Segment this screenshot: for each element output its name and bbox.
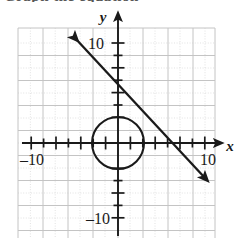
x-tick-label-positive-ten: 10 bbox=[200, 151, 216, 168]
coordinate-graph: y x –10 10 10 –10 bbox=[0, 0, 241, 246]
x-axis-label: x bbox=[225, 138, 234, 154]
y-tick-label-positive-ten: 10 bbox=[88, 35, 104, 52]
grid-background bbox=[18, 28, 215, 238]
figure-screenshot: Graph the equation bbox=[0, 0, 241, 246]
y-axis-label: y bbox=[98, 9, 107, 25]
x-tick-label-negative-ten: –10 bbox=[19, 151, 44, 168]
y-tick-label-negative-ten: –10 bbox=[85, 210, 110, 227]
